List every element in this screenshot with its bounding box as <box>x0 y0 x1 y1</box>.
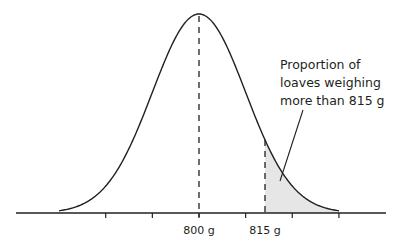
shaded-region-above-815g <box>265 140 339 213</box>
annotation-line-3: more than 815 g <box>280 93 385 108</box>
x-axis-ticks <box>106 213 339 218</box>
annotation-line-2: loaves weighing <box>280 75 381 90</box>
annotation-line-1: Proportion of <box>280 57 361 72</box>
normal-distribution-chart: 800 g 815 g Proportion of loaves weighin… <box>0 0 402 246</box>
annotation-pointer-line <box>280 110 303 181</box>
tick-label-800g: 800 g <box>183 224 214 237</box>
tick-label-815g: 815 g <box>249 224 280 237</box>
